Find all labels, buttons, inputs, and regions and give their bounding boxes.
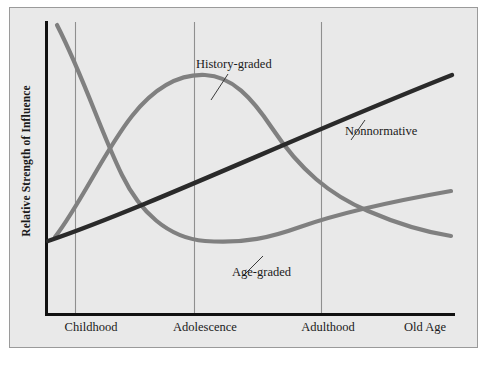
series-label-age-graded: Age-graded xyxy=(232,265,291,280)
x-tick-childhood: Childhood xyxy=(36,320,146,335)
series-label-nonnormative: Nonnormative xyxy=(345,124,417,139)
x-tick-adulthood: Adulthood xyxy=(273,320,383,335)
figure-container: Relative Strength of Influence Childhood… xyxy=(0,0,488,369)
x-tick-adolescence: Adolescence xyxy=(150,320,260,335)
x-tick-old-age: Old Age xyxy=(380,320,470,335)
series-label-history-graded: History-graded xyxy=(196,57,272,72)
y-axis-title: Relative Strength of Influence xyxy=(20,61,32,261)
